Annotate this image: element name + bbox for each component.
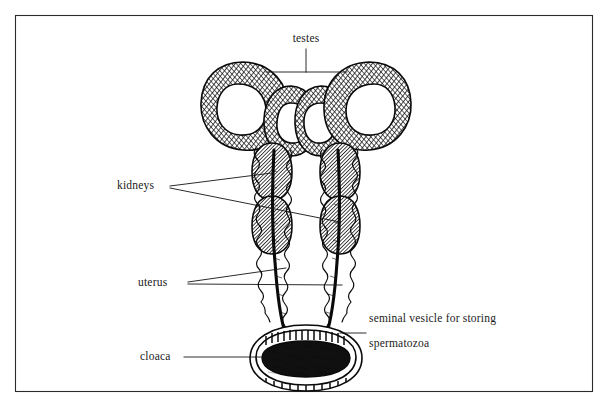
kidney-right	[316, 139, 366, 260]
cloaca	[262, 341, 350, 377]
label-seminal-vesicle-line1: seminal vesicle for storing	[369, 312, 496, 325]
leader-uterus	[188, 268, 342, 285]
figure-root: testes kidneys uterus seminal vesicle fo…	[0, 0, 608, 411]
label-uterus: uterus	[138, 276, 168, 288]
label-testes: testes	[293, 32, 320, 44]
anatomy-diagram: testes kidneys uterus seminal vesicle fo…	[0, 0, 608, 411]
label-kidneys: kidneys	[117, 179, 154, 192]
testis-right-outer	[324, 62, 411, 150]
label-seminal-vesicle-line2: spermatozoa	[369, 337, 429, 350]
label-cloaca: cloaca	[140, 350, 171, 362]
leader-testes	[266, 49, 347, 72]
